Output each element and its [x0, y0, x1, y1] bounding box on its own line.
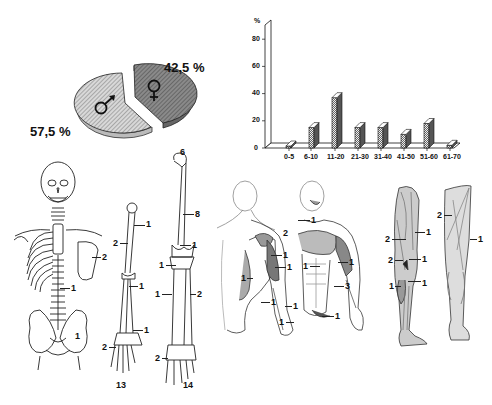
- leader-line: [134, 225, 145, 226]
- bar-21-30: [355, 123, 365, 148]
- y-tick-40: 40: [252, 89, 260, 96]
- leader-line: [310, 266, 320, 267]
- leg-muscles-side-illustration: 1 2 2 1 1 1: [375, 180, 435, 360]
- front-torso-muscles-illustration: 1 1 1 3 1: [290, 180, 370, 350]
- leg-label-tibia-1a: 1: [159, 261, 164, 270]
- back-label-elbow: 1: [271, 298, 276, 307]
- leader-line: [60, 288, 70, 289]
- x-label-51-60: 51-60: [420, 153, 438, 160]
- leader-line: [444, 215, 452, 216]
- leader-line: [334, 286, 344, 287]
- y-tick-20: 20: [252, 116, 260, 123]
- leader-line: [322, 316, 334, 317]
- leader-line: [409, 259, 421, 260]
- leg-a-label-knee-2: 2: [388, 256, 393, 265]
- leader-line: [298, 220, 310, 221]
- leg-muscles-back-illustration: 2 1: [435, 180, 492, 360]
- leader-line: [162, 358, 168, 359]
- female-percentage-label: 42,5 %: [164, 60, 204, 75]
- leg-a-label-thigh-1: 1: [426, 228, 431, 237]
- bar-chart-axes: [245, 10, 490, 165]
- leader-line: [109, 347, 116, 348]
- x-label-61-70: 61-70: [443, 153, 461, 160]
- x-label-0-5: 0-5: [284, 153, 294, 160]
- pie-graphic: [55, 55, 245, 155]
- x-label-6-10: 6-10: [304, 153, 318, 160]
- leg-label-head: 6: [180, 148, 185, 157]
- back-label-hand: 1: [279, 318, 284, 327]
- arm-label-humerus-2: 2: [113, 239, 118, 248]
- x-label-31-40: 31-40: [374, 153, 392, 160]
- bar-51-60: [424, 119, 434, 149]
- leader-line: [247, 278, 253, 279]
- back-label-deltoid: 2: [283, 229, 288, 238]
- arm-label-forearm-1b: 1: [144, 326, 149, 335]
- leg-a-label-knee-1: 1: [422, 255, 427, 264]
- leader-line: [395, 260, 403, 261]
- arm-skeleton-illustration: 1 2 1 1 2 13: [100, 195, 155, 395]
- y-tick-60: 60: [252, 62, 260, 69]
- leader-line: [180, 245, 191, 246]
- arm-label-forearm-1a: 1: [139, 282, 144, 291]
- leg-label-foot-2: 2: [155, 354, 160, 363]
- arm-label-hand-count: 13: [116, 381, 126, 390]
- leg-a-label-thigh-2: 2: [385, 235, 390, 244]
- bar-chart: % 80 60 40 20 0 0-5 6-10 11-20 21-30 31-…: [245, 10, 490, 165]
- leader-line: [261, 302, 270, 303]
- leader-line: [275, 267, 286, 268]
- leg-label-knee: 1: [192, 241, 197, 250]
- leader-line: [129, 286, 138, 287]
- bar-11-20: [332, 93, 342, 148]
- leader-line: [190, 294, 196, 295]
- leg-skeleton-illustration: 6 8 1 1 1 2 2 14: [150, 145, 220, 395]
- leader-line: [408, 281, 421, 282]
- leg-label-foot-count: 14: [183, 381, 193, 390]
- leader-line: [271, 255, 282, 256]
- front-label-forearm: 3: [345, 282, 350, 291]
- leg-b-label-thigh-1: 1: [478, 235, 483, 244]
- front-label-hip: 1: [335, 312, 340, 321]
- leg-label-femur: 8: [195, 210, 200, 219]
- front-label-neck: 1: [311, 216, 316, 225]
- front-label-chest: 1: [303, 262, 308, 271]
- leg-label-tibia-1b: 1: [155, 290, 160, 299]
- leader-line: [392, 239, 406, 240]
- leader-line: [470, 239, 477, 240]
- y-axis-unit-label: %: [254, 17, 260, 24]
- back-label-side: 1: [241, 274, 246, 283]
- back-label-arm-1a: 1: [283, 251, 288, 260]
- x-label-41-50: 41-50: [397, 153, 415, 160]
- leg-a-label-calf-1b: 1: [389, 282, 394, 291]
- skeleton-label-spine: 1: [71, 284, 76, 293]
- leg-label-fibula: 2: [197, 290, 202, 299]
- leader-line: [162, 294, 172, 295]
- back-torso-muscles-illustration: 2 1 1 1 1 1 1: [215, 180, 300, 350]
- leader-line: [395, 286, 401, 287]
- leader-line: [338, 262, 348, 263]
- bar-31-40: [378, 123, 388, 148]
- leader-line: [183, 214, 194, 215]
- leg-b-label-thigh-2: 2: [437, 211, 442, 220]
- x-label-11-20: 11-20: [327, 153, 345, 160]
- bar-6-10: [309, 123, 319, 148]
- arm-label-hand-2: 2: [102, 343, 107, 352]
- leader-line: [133, 330, 143, 331]
- y-tick-80: 80: [252, 35, 260, 42]
- leader-line: [166, 265, 176, 266]
- leader-line: [120, 243, 128, 244]
- pie-chart: [55, 55, 245, 155]
- leader-line: [415, 232, 425, 233]
- leg-a-label-calf-1a: 1: [422, 279, 427, 288]
- x-label-21-30: 21-30: [351, 153, 369, 160]
- male-percentage-label: 57,5 %: [30, 124, 70, 139]
- y-tick-0: 0: [254, 144, 258, 151]
- skeleton-label-pelvis: 1: [75, 332, 80, 341]
- front-label-arm: 1: [349, 258, 354, 267]
